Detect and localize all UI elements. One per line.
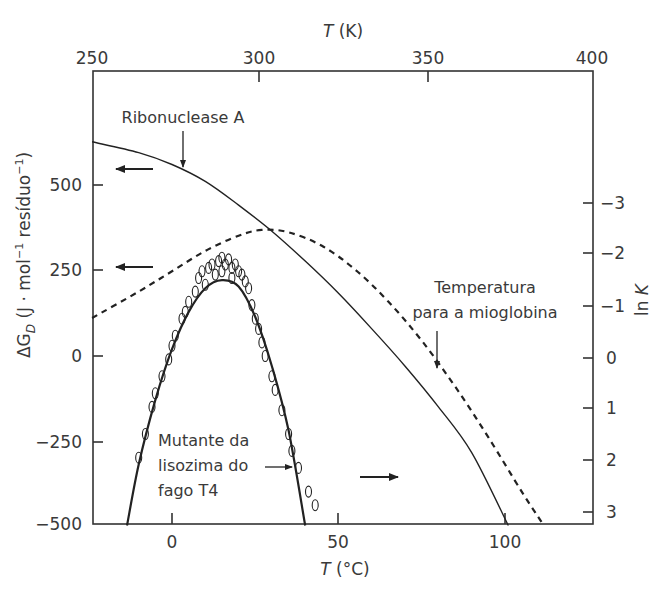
left-tick-label: 250 <box>50 260 82 280</box>
t4-label-line1: Mutante da <box>158 431 249 450</box>
left-axis-title: ΔGD (J · mol−1 resíduo−1) <box>13 152 38 358</box>
data-point <box>182 306 188 317</box>
top-tick-label: 400 <box>576 48 608 68</box>
data-point <box>192 286 198 297</box>
data-point <box>262 351 268 362</box>
right-tick-label: 0 <box>606 348 617 368</box>
right-tick-label: 3 <box>606 502 617 522</box>
data-point <box>272 384 278 395</box>
bottom-axis-ticks: 0 50 100 <box>167 513 522 552</box>
bottom-tick-label: 0 <box>167 532 178 552</box>
right-axis-ticks: −3 −2 −1 0 1 2 3 <box>583 193 625 522</box>
ribonuclease-label: Ribonuclease A <box>122 108 245 127</box>
data-point <box>196 273 202 284</box>
right-tick-label: −3 <box>600 193 625 213</box>
top-axis-title: T (K) <box>323 21 363 41</box>
right-axis-title: ln K <box>632 282 652 316</box>
ribonuclease-curve <box>92 142 508 526</box>
data-point <box>219 266 225 277</box>
stability-chart: T (K) 250 300 350 400 0 50 100 T (°C) 50… <box>0 0 665 598</box>
data-point <box>186 296 192 307</box>
bottom-tick-label: 100 <box>489 532 521 552</box>
data-point <box>306 486 312 497</box>
data-point <box>312 500 318 511</box>
left-tick-label: 500 <box>50 175 82 195</box>
bottom-tick-label: 50 <box>327 532 349 552</box>
t4-label-line3: fago T4 <box>158 481 218 500</box>
top-tick-label: 350 <box>412 48 444 68</box>
left-tick-label: −500 <box>35 514 82 534</box>
t4-label-line2: lisozima do <box>158 456 248 475</box>
data-point <box>212 269 218 280</box>
right-tick-label: 1 <box>606 398 617 418</box>
myoglobin-label-line2: para a mioglobina <box>412 303 557 322</box>
data-point <box>242 276 248 287</box>
right-tick-label: −1 <box>600 296 625 316</box>
left-tick-label: 0 <box>71 346 82 366</box>
top-tick-label: 250 <box>76 48 108 68</box>
top-axis-ticks: 250 300 350 400 <box>76 48 608 82</box>
data-point <box>199 266 205 277</box>
right-tick-label: 2 <box>606 450 617 470</box>
myoglobin-label-line1: Temperatura <box>433 278 536 297</box>
bottom-axis-title: T (°C) <box>320 559 369 579</box>
right-tick-label: −2 <box>600 243 625 263</box>
top-tick-label: 300 <box>243 48 275 68</box>
data-point <box>246 283 252 294</box>
left-tick-label: −250 <box>35 432 82 452</box>
